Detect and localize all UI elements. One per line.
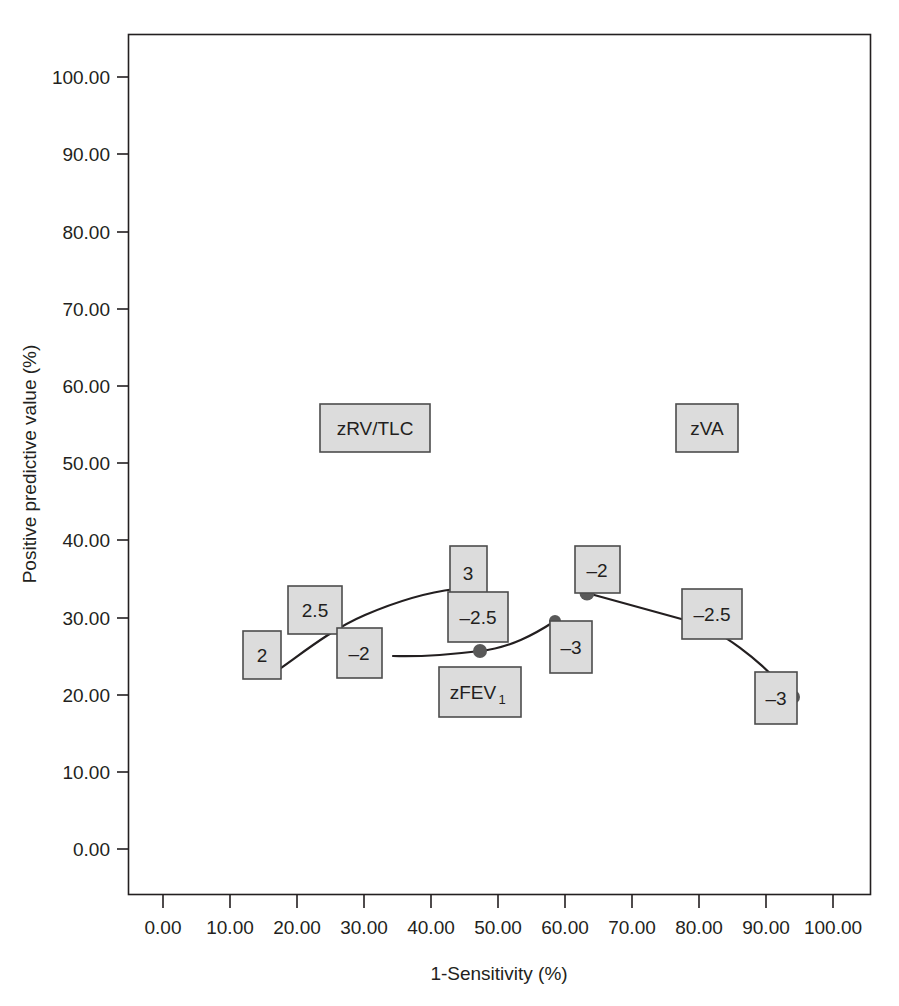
x-tick-label: 50.00 bbox=[474, 917, 522, 938]
x-tick-group-20: 20.00 bbox=[273, 894, 321, 938]
y-tick-group-80: 80.00 bbox=[62, 222, 128, 243]
y-tick-label: 30.00 bbox=[62, 608, 110, 629]
x-tick-label: 40.00 bbox=[407, 917, 455, 938]
box-zva-m2: –2 bbox=[575, 546, 620, 593]
x-tick-group-80: 80.00 bbox=[675, 894, 723, 938]
box-value: –3 bbox=[765, 688, 786, 709]
x-axis: 0.00 10.00 20.00 30.00 40.00 50.00 bbox=[145, 894, 863, 938]
y-tick-label: 60.00 bbox=[62, 376, 110, 397]
y-tick-group-0: 0.00 bbox=[73, 839, 128, 860]
y-tick-group-60: 60.00 bbox=[62, 376, 128, 397]
series-name-subscript: 1 bbox=[498, 692, 505, 707]
y-tick-group-70: 70.00 bbox=[62, 299, 128, 320]
x-tick-label: 10.00 bbox=[206, 917, 254, 938]
y-tick-group-50: 50.00 bbox=[62, 453, 128, 474]
y-tick-label: 0.00 bbox=[73, 839, 110, 860]
y-tick-label: 20.00 bbox=[62, 685, 110, 706]
series-name: zVA bbox=[690, 418, 724, 439]
x-tick-group-40: 40.00 bbox=[407, 894, 455, 938]
y-tick-label: 50.00 bbox=[62, 453, 110, 474]
box-value: 2.5 bbox=[302, 600, 328, 621]
x-tick-label: 70.00 bbox=[608, 917, 656, 938]
y-tick-label: 10.00 bbox=[62, 762, 110, 783]
x-tick-group-10: 10.00 bbox=[206, 894, 254, 938]
marker-zfev1-m25 bbox=[473, 644, 487, 658]
x-axis-title: 1-Sensitivity (%) bbox=[430, 963, 567, 984]
y-tick-group-90: 90.00 bbox=[62, 144, 128, 165]
x-tick-group-30: 30.00 bbox=[340, 894, 388, 938]
y-tick-group-100: 100.00 bbox=[52, 67, 128, 88]
x-tick-label: 0.00 bbox=[145, 917, 182, 938]
label-box-zrvtlc: zRV/TLC bbox=[320, 404, 430, 452]
x-tick-group-50: 50.00 bbox=[474, 894, 522, 938]
series-name: zFEV bbox=[450, 682, 497, 703]
x-tick-group-70: 70.00 bbox=[608, 894, 656, 938]
box-value: –2.5 bbox=[694, 604, 731, 625]
label-box-zfev1: zFEV 1 bbox=[439, 667, 521, 717]
box-value: –3 bbox=[560, 637, 581, 658]
x-tick-group-90: 90.00 bbox=[742, 894, 790, 938]
x-tick-group-100: 100.00 bbox=[804, 894, 862, 938]
box-value: 3 bbox=[463, 563, 474, 584]
box-zfev1-m25: –2.5 bbox=[448, 592, 508, 642]
box-zva-m25: –2.5 bbox=[682, 589, 742, 639]
y-axis-title: Positive predictive value (%) bbox=[19, 345, 40, 584]
y-tick-label: 40.00 bbox=[62, 530, 110, 551]
series-name: zRV/TLC bbox=[337, 418, 414, 439]
x-tick-label: 30.00 bbox=[340, 917, 388, 938]
y-tick-group-10: 10.00 bbox=[62, 762, 128, 783]
x-tick-group-60: 60.00 bbox=[541, 894, 589, 938]
x-tick-label: 100.00 bbox=[804, 917, 862, 938]
y-tick-group-40: 40.00 bbox=[62, 530, 128, 551]
x-tick-label: 80.00 bbox=[675, 917, 723, 938]
box-value: 2 bbox=[257, 645, 268, 666]
box-zrvtlc-3: 3 bbox=[450, 546, 487, 599]
box-zfev1-m3: –3 bbox=[550, 621, 592, 673]
box-value: –2 bbox=[348, 643, 369, 664]
x-tick-label: 20.00 bbox=[273, 917, 321, 938]
box-zrvtlc-25: 2.5 bbox=[288, 586, 342, 634]
label-box-zva: zVA bbox=[676, 404, 738, 452]
box-zfev1-m2: –2 bbox=[337, 628, 382, 678]
y-axis: 100.00 90.00 80.00 70.00 60.00 50.00 bbox=[52, 67, 128, 860]
y-tick-group-30: 30.00 bbox=[62, 608, 128, 629]
box-zrvtlc-2: 2 bbox=[243, 631, 281, 679]
box-value: –2.5 bbox=[460, 607, 497, 628]
x-tick-group-0: 0.00 bbox=[145, 894, 182, 938]
y-tick-label: 80.00 bbox=[62, 222, 110, 243]
box-value: –2 bbox=[586, 560, 607, 581]
plot-area-frame bbox=[129, 35, 871, 895]
roc-ppv-plot: 100.00 90.00 80.00 70.00 60.00 50.00 bbox=[0, 0, 899, 1006]
chart-figure: 100.00 90.00 80.00 70.00 60.00 50.00 bbox=[0, 0, 899, 1006]
y-tick-label: 100.00 bbox=[52, 67, 110, 88]
x-tick-label: 60.00 bbox=[541, 917, 589, 938]
y-tick-label: 70.00 bbox=[62, 299, 110, 320]
box-zva-m3: –3 bbox=[755, 672, 797, 724]
y-tick-group-20: 20.00 bbox=[62, 685, 128, 706]
x-tick-label: 90.00 bbox=[742, 917, 790, 938]
y-tick-label: 90.00 bbox=[62, 144, 110, 165]
